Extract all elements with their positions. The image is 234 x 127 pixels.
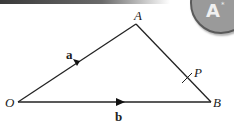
label-o: O [5, 96, 14, 109]
label-vector-b: b [115, 110, 122, 123]
label-b: B [213, 96, 221, 109]
label-a: A [134, 9, 142, 22]
side-ab-line [136, 24, 211, 102]
label-vector-a: a [66, 48, 73, 61]
label-p: P [194, 66, 202, 79]
arrow-b-icon [116, 98, 125, 106]
triangle-diagram [0, 0, 234, 127]
